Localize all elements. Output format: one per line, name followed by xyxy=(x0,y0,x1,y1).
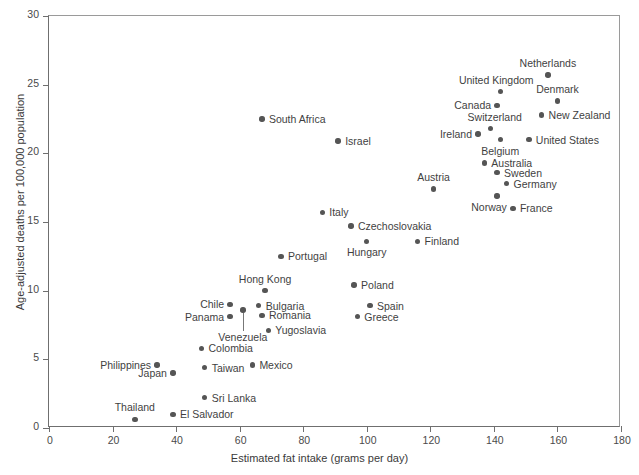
data-point-label: New Zealand xyxy=(549,110,611,121)
x-tick-label-120: 120 xyxy=(423,435,441,446)
data-point-label: Netherlands xyxy=(520,58,577,69)
data-point-label: Finland xyxy=(425,236,459,247)
data-point-dot[interactable] xyxy=(348,223,353,228)
data-point-dot[interactable] xyxy=(259,313,264,318)
x-axis-title: Estimated fat intake (grams per day) xyxy=(0,452,639,464)
data-point-dot[interactable] xyxy=(262,288,267,293)
data-point-dot[interactable] xyxy=(335,138,340,143)
y-tick-label-20: 20 xyxy=(27,146,39,157)
data-point-dot[interactable] xyxy=(170,370,175,375)
x-tick-0: 0 xyxy=(49,426,50,432)
data-point-label: Norway xyxy=(471,202,507,213)
x-tick-180: 180 xyxy=(621,426,622,432)
data-point-label: Israel xyxy=(345,136,371,147)
data-point-label: Mexico xyxy=(259,360,292,371)
x-tick-label-160: 160 xyxy=(550,435,568,446)
data-point-label: Chile xyxy=(200,299,224,310)
data-point-dot[interactable] xyxy=(475,131,480,136)
data-point-label: El Salvador xyxy=(180,409,234,420)
y-tick-label-0: 0 xyxy=(33,421,39,432)
data-point-label: Belgium xyxy=(481,146,519,157)
data-point-dot[interactable] xyxy=(240,307,245,312)
data-point-dot[interactable] xyxy=(355,314,360,319)
x-tick-140: 140 xyxy=(494,426,495,432)
data-point-dot[interactable] xyxy=(482,160,487,165)
data-point-dot[interactable] xyxy=(504,181,509,186)
data-point-label: Portugal xyxy=(288,251,327,262)
data-point-dot[interactable] xyxy=(351,282,356,287)
data-point-dot[interactable] xyxy=(494,170,499,175)
data-point-label: Panama xyxy=(185,312,224,323)
data-point-label: Czechoslovakia xyxy=(358,221,432,232)
data-point-dot[interactable] xyxy=(364,239,369,244)
data-point-dot[interactable] xyxy=(494,103,499,108)
y-tick-5: 5 xyxy=(43,359,49,360)
x-tick-40: 40 xyxy=(176,426,177,432)
y-tick-label-25: 25 xyxy=(27,78,39,89)
data-point-label: Germany xyxy=(514,178,557,189)
data-point-dot[interactable] xyxy=(202,365,207,370)
data-point-label: Hungary xyxy=(347,247,387,258)
data-point-dot[interactable] xyxy=(431,186,436,191)
x-tick-label-140: 140 xyxy=(486,435,504,446)
data-point-dot[interactable] xyxy=(320,210,325,215)
data-point-dot[interactable] xyxy=(555,98,560,103)
data-point-label: Canada xyxy=(454,100,491,111)
data-point-dot[interactable] xyxy=(202,395,207,400)
y-tick-25: 25 xyxy=(43,85,49,86)
data-point-label: France xyxy=(520,203,553,214)
x-tick-label-0: 0 xyxy=(47,435,53,446)
y-tick-label-10: 10 xyxy=(27,284,39,295)
data-point-dot[interactable] xyxy=(132,417,137,422)
data-point-dot[interactable] xyxy=(498,137,503,142)
x-tick-label-20: 20 xyxy=(108,435,120,446)
y-tick-10: 10 xyxy=(43,291,49,292)
y-tick-20: 20 xyxy=(43,153,49,154)
data-point-label: Romania xyxy=(269,310,311,321)
data-point-dot[interactable] xyxy=(510,206,515,211)
data-point-label: United States xyxy=(536,134,599,145)
x-tick-label-100: 100 xyxy=(359,435,377,446)
x-tick-60: 60 xyxy=(240,426,241,432)
y-tick-label-15: 15 xyxy=(27,215,39,226)
data-point-dot[interactable] xyxy=(526,137,531,142)
data-point-label: Venezuela xyxy=(218,332,267,343)
data-point-label: Switzerland xyxy=(468,111,522,122)
data-point-dot[interactable] xyxy=(256,303,261,308)
data-point-dot[interactable] xyxy=(250,362,255,367)
data-point-label: Greece xyxy=(364,312,398,323)
x-tick-20: 20 xyxy=(113,426,114,432)
data-point-dot[interactable] xyxy=(199,346,204,351)
data-point-dot[interactable] xyxy=(498,89,503,94)
x-tick-80: 80 xyxy=(303,426,304,432)
data-point-dot[interactable] xyxy=(367,303,372,308)
data-point-label: Yugoslavia xyxy=(275,325,326,336)
data-point-dot[interactable] xyxy=(227,314,232,319)
y-tick-label-5: 5 xyxy=(33,352,39,363)
data-point-dot[interactable] xyxy=(488,126,493,131)
x-tick-label-40: 40 xyxy=(171,435,183,446)
data-point-label: Hong Kong xyxy=(239,273,292,284)
data-point-dot[interactable] xyxy=(539,112,544,117)
scatter-plot-figure: 051015202530 020406080100120140160180 So… xyxy=(0,0,639,475)
data-point-dot[interactable] xyxy=(227,302,232,307)
data-point-label: South Africa xyxy=(269,114,326,125)
data-point-label: Ireland xyxy=(440,129,472,140)
data-point-label: Sweden xyxy=(504,167,542,178)
data-point-label: Spain xyxy=(377,301,404,312)
data-point-dot[interactable] xyxy=(259,116,264,121)
data-point-dot[interactable] xyxy=(545,72,550,77)
data-point-dot[interactable] xyxy=(278,254,283,259)
data-point-dot[interactable] xyxy=(494,193,499,198)
x-tick-160: 160 xyxy=(557,426,558,432)
data-point-label: Japan xyxy=(138,368,167,379)
y-axis-title: Age-adjusted deaths per 100,000 populati… xyxy=(14,77,26,327)
data-point-label: Taiwan xyxy=(212,362,245,373)
data-point-label: Sri Lanka xyxy=(212,393,256,404)
x-tick-label-180: 180 xyxy=(613,435,631,446)
data-point-dot[interactable] xyxy=(170,412,175,417)
x-tick-120: 120 xyxy=(430,426,431,432)
data-point-dot[interactable] xyxy=(415,239,420,244)
y-tick-label-30: 30 xyxy=(27,9,39,20)
data-point-label: Poland xyxy=(361,280,394,291)
